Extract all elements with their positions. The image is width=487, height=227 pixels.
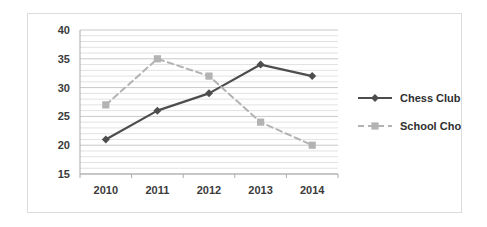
x-axis-tick-labels: 20102011201220132014 bbox=[94, 184, 326, 196]
x-axis-tick-label: 2011 bbox=[145, 184, 169, 196]
legend-item: Chess Club bbox=[358, 92, 461, 104]
series-line bbox=[106, 59, 312, 145]
y-axis-tick-label: 30 bbox=[58, 82, 70, 94]
data-point-marker bbox=[205, 72, 212, 79]
x-axis-tick-label: 2014 bbox=[300, 184, 325, 196]
data-point-marker bbox=[309, 142, 316, 149]
x-axis-tick-label: 2012 bbox=[197, 184, 221, 196]
x-axis-tickmarks bbox=[80, 174, 338, 178]
y-axis-tick-label: 40 bbox=[58, 24, 70, 36]
legend-item: School Choir bbox=[358, 120, 461, 132]
y-axis-tick-labels: 152025303540 bbox=[58, 24, 70, 180]
legend-label: Chess Club bbox=[400, 92, 461, 104]
y-axis-tick-label: 20 bbox=[58, 139, 70, 151]
y-axis-tick-label: 35 bbox=[58, 53, 70, 65]
data-point-marker bbox=[154, 55, 161, 62]
major-gridlines bbox=[80, 30, 338, 174]
y-axis-tick-label: 15 bbox=[58, 168, 70, 180]
data-series-layer bbox=[102, 55, 316, 149]
x-axis-tick-label: 2013 bbox=[248, 184, 272, 196]
chart-figure: 152025303540 20102011201220132014 Chess … bbox=[27, 13, 462, 213]
data-point-marker bbox=[308, 72, 316, 80]
x-axis-tick-label: 2010 bbox=[94, 184, 118, 196]
minor-gridlines bbox=[80, 36, 338, 168]
legend-label: School Choir bbox=[400, 120, 461, 132]
y-axis-tick-label: 25 bbox=[58, 110, 70, 122]
data-point-marker bbox=[371, 94, 379, 102]
data-point-marker bbox=[371, 122, 378, 129]
data-point-marker bbox=[102, 101, 109, 108]
data-point-marker bbox=[257, 119, 264, 126]
line-chart: 152025303540 20102011201220132014 Chess … bbox=[28, 14, 461, 212]
chart-legend: Chess ClubSchool Choir bbox=[358, 92, 461, 132]
